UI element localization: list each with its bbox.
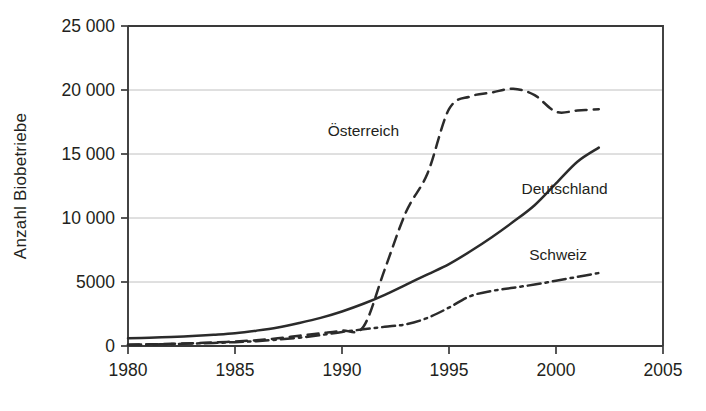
y-tick-label: 15 000: [61, 144, 115, 164]
series-line-deutschland: [128, 148, 599, 339]
y-axis-ticks: [121, 26, 128, 346]
series-label-schweiz: Schweiz: [529, 246, 587, 263]
x-tick-label: 1985: [216, 360, 255, 380]
y-tick-label: 5000: [76, 272, 115, 292]
series-label-sterreich: Österreich: [328, 122, 400, 139]
series-label-deutschland: Deutschland: [521, 180, 607, 197]
series-line-schweiz: [128, 273, 599, 345]
x-axis-tick-labels: 198019851990199520002005: [109, 360, 683, 380]
chart-container: 0500010 00015 00020 00025 000 1980198519…: [0, 0, 706, 411]
gridlines-group: [128, 26, 663, 282]
x-tick-label: 2000: [537, 360, 576, 380]
y-tick-label: 10 000: [61, 208, 115, 228]
y-axis-tick-labels: 0500010 00015 00020 00025 000: [61, 16, 115, 356]
y-axis-title: Anzahl Biobetriebe: [11, 113, 30, 259]
line-chart: 0500010 00015 00020 00025 000 1980198519…: [0, 0, 706, 411]
series-annotations: ÖsterreichDeutschlandSchweiz: [328, 122, 608, 263]
x-tick-label: 1990: [323, 360, 362, 380]
y-tick-label: 20 000: [61, 80, 115, 100]
x-tick-label: 1980: [109, 360, 148, 380]
x-axis-ticks: [128, 346, 663, 354]
y-tick-label: 0: [105, 336, 115, 356]
x-tick-label: 2005: [644, 360, 683, 380]
x-tick-label: 1995: [430, 360, 469, 380]
y-tick-label: 25 000: [61, 16, 115, 36]
